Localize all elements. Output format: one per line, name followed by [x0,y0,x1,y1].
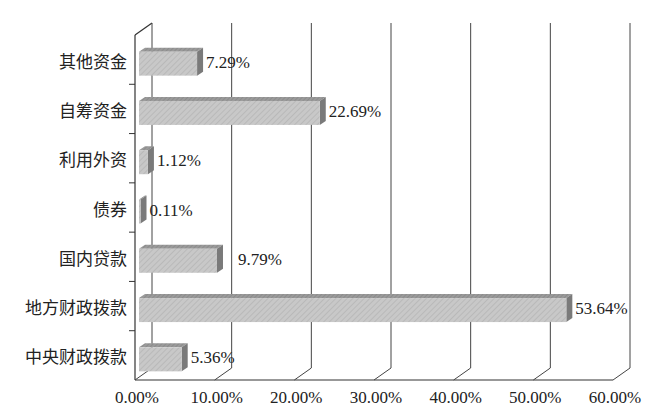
value-label: 53.64% [575,299,627,318]
bar-front-face [139,249,217,273]
category-label: 债券 [93,200,127,220]
x-tick-label: 30.00% [350,388,402,407]
bar-front-face [139,52,197,76]
bar: 53.64% [139,294,628,322]
floor-connector [215,368,232,380]
chart-axes [129,23,613,380]
bar: 22.69% [139,97,381,125]
x-tick-label: 10.00% [190,388,242,407]
bar-side-face [197,48,203,76]
category-labels: 其他资金自筹资金利用外资债券国内贷款地方财政拨款中央财政拨款 [25,52,127,368]
bar: 5.36% [139,343,235,371]
bar-side-face [182,343,188,371]
category-label: 利用外资 [59,150,127,170]
axis-depth-top [135,23,152,35]
floor-connector [533,368,550,380]
x-axis-tick-labels: 0.00%10.00%20.00%30.00%40.00%50.00%60.00… [115,388,641,407]
value-label: 0.11% [150,201,193,220]
category-label: 中央财政拨款 [25,347,127,367]
bar-top-face [139,343,188,347]
bar-side-face [148,146,154,174]
bar-front-face [139,200,141,224]
bar-side-face [217,245,223,273]
value-label: 7.29% [206,53,250,72]
bar-top-face [139,97,326,101]
gridlines [135,23,630,380]
bar-front-face [139,150,148,174]
bar-front-face [139,101,320,125]
x-tick-label: 60.00% [589,388,641,407]
bar-top-face [139,48,203,52]
bar: 9.79% [139,245,282,273]
bar-chart: 7.29%22.69%1.12%0.11%9.79%53.64%5.36% 其他… [0,0,648,411]
category-label: 地方财政拨款 [25,298,127,318]
bar-side-face [566,294,572,322]
floor-connector [454,368,471,380]
floor-connector [294,368,311,380]
bar-front-face [139,298,566,322]
x-tick-label: 50.00% [509,388,561,407]
x-tick-label: 40.00% [429,388,481,407]
floor-connector [613,368,630,380]
bar: 7.29% [139,48,250,76]
bar: 1.12% [139,146,201,174]
bar-side-face [141,196,147,224]
value-label: 9.79% [238,250,282,269]
bar-top-face [139,245,223,249]
value-label: 22.69% [329,102,381,121]
value-label: 5.36% [191,348,235,367]
bar-top-face [139,294,572,298]
floor-connector [374,368,391,380]
category-label: 国内贷款 [59,249,127,269]
bar-side-face [320,97,326,125]
category-label: 自筹资金 [59,101,127,121]
bar: 0.11% [139,196,193,224]
value-label: 1.12% [157,151,201,170]
category-label: 其他资金 [59,52,127,72]
bar-front-face [139,347,182,371]
x-tick-label: 20.00% [270,388,322,407]
x-tick-label: 0.00% [115,388,159,407]
bars: 7.29%22.69%1.12%0.11%9.79%53.64%5.36% [139,48,628,372]
